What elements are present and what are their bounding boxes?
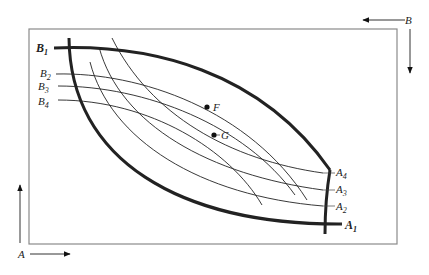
point-f-label: F	[212, 101, 220, 113]
origin-b-axes: B	[363, 14, 412, 73]
origin-a-label: A	[17, 248, 25, 260]
curve-a1	[69, 38, 342, 224]
label-b1: B1	[35, 41, 48, 57]
label-b4: B4	[38, 95, 49, 110]
label-b3: B3	[38, 80, 49, 95]
label-a3: A3	[335, 183, 347, 198]
edgeworth-box-diagram: A B B1 B2 B3 B4 A4 A3 A2 A1	[0, 0, 429, 275]
origin-a-axes: A	[17, 185, 70, 260]
point-g-label: G	[221, 129, 229, 141]
label-a2: A2	[335, 200, 347, 215]
origin-b-label: B	[405, 14, 412, 26]
curve-b1	[54, 48, 330, 170]
point-f: F	[204, 101, 220, 113]
curve-b2	[56, 74, 307, 200]
b-curve-labels: B1 B2 B3 B4	[35, 41, 51, 110]
a-indifference-curves	[69, 38, 342, 224]
label-a4: A4	[335, 166, 347, 181]
label-a1: A1	[344, 218, 357, 234]
